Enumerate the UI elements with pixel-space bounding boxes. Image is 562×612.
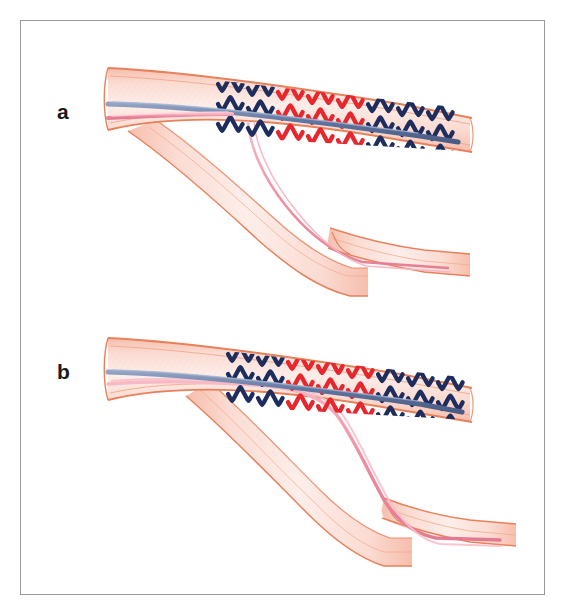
panel-a	[104, 68, 473, 296]
stent-strut-ring	[248, 121, 273, 135]
stent-strut-ring	[338, 133, 363, 147]
panel-a-side-branch-vessel	[128, 120, 368, 296]
stent-strut-ring	[278, 125, 303, 139]
panel-label-a: a	[57, 101, 69, 122]
figure-illustration	[0, 0, 562, 612]
stent-strut-ring	[288, 395, 313, 409]
stent-strut-ring	[308, 129, 333, 143]
panel-b	[104, 338, 516, 566]
panel-b-side-branch-vessel	[186, 382, 412, 566]
stent-strut-ring	[368, 137, 393, 151]
panel-label-b: b	[57, 361, 70, 382]
